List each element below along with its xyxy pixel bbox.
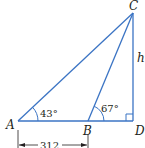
triangle-diagram: A B C D 43° 67° h 312: [0, 0, 145, 148]
label-B: B: [82, 124, 92, 138]
label-D: D: [134, 124, 145, 138]
side-label-312: 312: [40, 140, 59, 148]
right-angle-marker: [126, 114, 133, 121]
dim-arrow-right: [81, 143, 87, 147]
label-C: C: [129, 0, 138, 13]
dim-arrow-left: [19, 143, 25, 147]
label-A: A: [5, 118, 15, 132]
side-label-h: h: [137, 51, 145, 65]
angle-label-A: 43°: [40, 108, 58, 119]
angle-label-B: 67°: [101, 103, 119, 114]
angle-arc-A: [33, 107, 38, 121]
